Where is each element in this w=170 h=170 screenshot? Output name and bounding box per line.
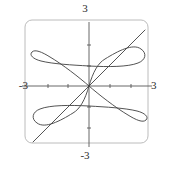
curve-lower-lobe — [33, 86, 147, 125]
parametric-plot-figure: 3 -3 -3 3 — [0, 0, 170, 170]
plot-frame — [25, 20, 148, 143]
x-axis-max-label: 3 — [151, 80, 169, 91]
curve-upper-lobe — [31, 47, 145, 86]
y-axis-max-label: 3 — [0, 3, 170, 14]
y-axis-min-label: -3 — [0, 150, 170, 161]
x-axis-min-label: -3 — [6, 80, 28, 91]
